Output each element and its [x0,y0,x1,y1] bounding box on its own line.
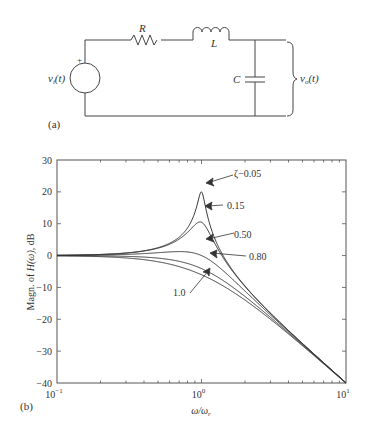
annotation-zeta-015: 0.15 [227,200,245,211]
figure: + vi(t) R L C vo(t) (a) 3020100−10−20−30… [0,0,367,428]
annotation-zeta-050: 0.50 [234,229,252,240]
annotation-zeta-005: ζ−0.05 [234,168,261,180]
x-tick-labels: 10−1100101 [45,387,350,400]
capacitor-icon [245,77,265,82]
y-tick-label: −40 [36,378,52,389]
y-tick-label: −30 [36,346,52,357]
y-tick-label: 30 [42,155,52,166]
inductor-label: L [210,37,217,49]
curves [57,192,346,383]
x-tick-label: 100 [192,387,206,400]
source-polarity: + [77,55,82,65]
circuit-labels: + vi(t) R L C vo(t) (a) [48,22,319,131]
resistor-icon [131,35,157,45]
curve-zeta [57,222,346,383]
output-brace-icon [287,42,297,116]
panel-label-a: (a) [48,118,61,131]
y-tick-label: −10 [36,282,52,293]
capacitor-label: C [233,73,241,85]
x-tick-label: 10−1 [45,387,63,400]
y-tick-label: 20 [42,186,52,197]
plot-frame [57,160,346,383]
resistor-label: R [138,22,146,34]
x-axis-label: ω/ωr [191,405,211,418]
voltage-source-icon [70,63,100,93]
y-tick-labels: 3020100−10−20−30−40 [36,155,52,389]
annotation-zeta-080: 0.80 [249,251,267,262]
bode-plot: 3020100−10−20−30−40 10−1100101 ζ−0.05 0.… [20,155,350,419]
y-axis-label: Magn. of H(ω), dB [25,233,37,310]
curve-zeta [57,192,346,383]
panel-label-b: (b) [20,400,33,413]
curve-zeta [57,256,346,383]
source-label: vi(t) [48,72,66,86]
output-label: vo(t) [300,72,319,86]
y-tick-label: 10 [42,218,52,229]
axis-ticks [57,160,346,383]
curve-zeta [57,252,346,383]
x-tick-label: 101 [336,387,350,400]
circuit-diagram [70,28,297,117]
y-tick-label: 0 [47,250,52,261]
annotation-zeta-10: 1.0 [173,287,186,298]
y-tick-label: −20 [36,314,52,325]
